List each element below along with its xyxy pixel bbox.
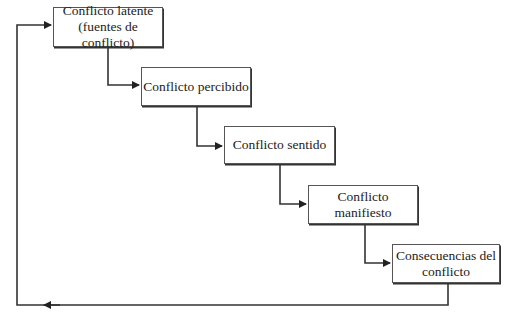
node-label: Conflicto manifiesto <box>309 189 417 221</box>
arrow-manifiesto-to-consecuencias <box>365 224 390 263</box>
node-label: Conflicto sentido <box>233 137 326 153</box>
node-conflicto-manifiesto: Conflicto manifiesto <box>308 185 418 224</box>
conflict-process-diagram: Conflicto latente (fuentes de conflicto)… <box>0 0 510 320</box>
node-conflicto-percibido: Conflicto percibido <box>141 67 251 106</box>
node-label: Conflicto latente (fuentes de conflicto) <box>54 3 162 51</box>
node-label: Consecuencias del conflicto <box>396 248 496 280</box>
node-conflicto-sentido: Conflicto sentido <box>224 126 335 164</box>
arrow-latente-to-percibido <box>108 47 139 85</box>
arrow-percibido-to-sentido <box>197 106 222 146</box>
node-conflicto-latente: Conflicto latente (fuentes de conflicto) <box>53 7 163 47</box>
node-consecuencias-del-conflicto: Consecuencias del conflicto <box>392 244 500 283</box>
arrow-sentido-to-manifiesto <box>280 164 306 204</box>
node-label: Conflicto percibido <box>143 79 248 95</box>
